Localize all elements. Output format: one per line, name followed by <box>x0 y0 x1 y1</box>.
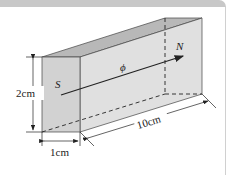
width-dimension <box>42 132 80 146</box>
magnet-diagram: S N ϕ 2cm 1cm 10cm <box>0 0 241 175</box>
flux-label: ϕ <box>120 61 126 73</box>
height-label: 2cm <box>16 87 35 99</box>
length-label: 10cm <box>135 112 162 131</box>
width-label: 1cm <box>50 146 69 158</box>
north-label: N <box>175 40 184 52</box>
south-label: S <box>55 78 61 90</box>
